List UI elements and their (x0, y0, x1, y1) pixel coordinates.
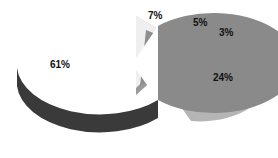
pie-label-7: 7% (148, 11, 162, 21)
pie-label-3: 3% (219, 28, 233, 38)
pie-chart: 61% 24% 7% 5% 3% (0, 0, 278, 158)
pie-slice-61-top (153, 13, 278, 113)
pie-label-5: 5% (193, 18, 207, 28)
pie-label-61: 61% (50, 60, 70, 70)
pie-chart-graphic (0, 0, 278, 158)
pie-label-24: 24% (213, 73, 233, 83)
